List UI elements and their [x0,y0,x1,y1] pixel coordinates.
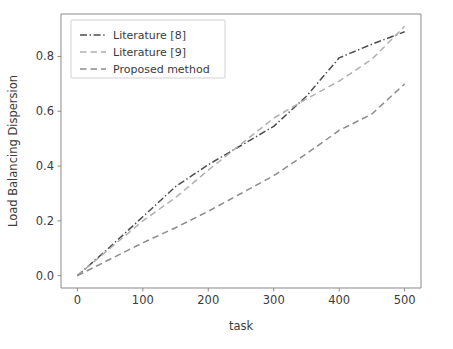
y-tick-label: 0.6 [36,104,54,118]
x-axis-ticks: 0100200300400500 [74,288,416,307]
x-tick-label: 300 [263,293,285,307]
x-axis-label: task [229,319,254,333]
figure-container: 0100200300400500 0.00.20.40.60.8 task Lo… [0,0,453,349]
legend-label-2: Literature [9] [113,46,186,59]
legend-label-3: Proposed method [113,63,210,76]
legend[interactable]: Literature [8]Literature [9]Proposed met… [71,20,225,78]
legend-label-1: Literature [8] [113,29,186,42]
y-axis-label: Load Balancing Dispersion [6,75,20,227]
y-axis-ticks: 0.00.20.40.60.8 [36,49,61,282]
y-tick-label: 0.2 [36,214,54,228]
y-tick-label: 0.8 [36,49,54,63]
x-tick-label: 400 [328,293,350,307]
x-tick-label: 100 [132,293,154,307]
line-chart: 0100200300400500 0.00.20.40.60.8 task Lo… [0,0,453,349]
y-tick-label: 0.0 [36,269,54,283]
y-tick-label: 0.4 [36,159,54,173]
x-tick-label: 0 [74,293,81,307]
x-tick-label: 200 [197,293,219,307]
x-tick-label: 500 [394,293,416,307]
